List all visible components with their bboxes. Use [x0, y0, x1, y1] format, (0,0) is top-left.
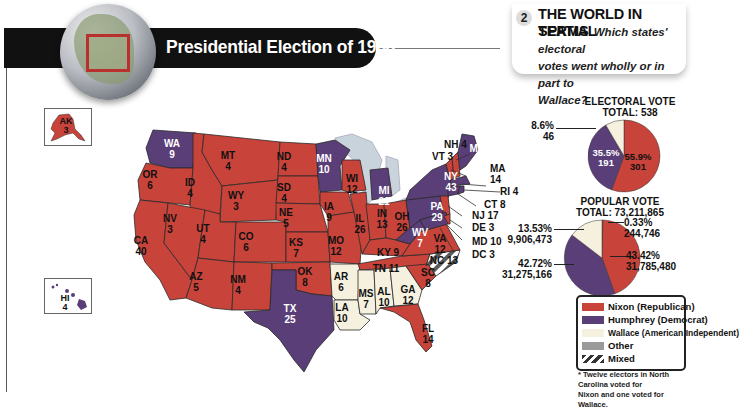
state-label-ky: KY 9 — [377, 247, 399, 258]
state-ev-mn: 10 — [318, 164, 330, 175]
state-ev-wy: 3 — [233, 201, 239, 212]
state-ev-ne: 5 — [283, 218, 289, 229]
state-label-al: AL — [377, 286, 390, 297]
state-label-mn: MN — [316, 153, 332, 164]
legend-label-nixon: Nixon (Republican) — [608, 301, 695, 312]
state-ev-la: 10 — [336, 313, 348, 324]
popular-humphrey-votes: 31,275,166 — [496, 269, 552, 280]
legend-item-mixed: Mixed — [582, 352, 635, 365]
legend-swatch-wallace — [582, 329, 604, 337]
state-label-id: ID — [185, 177, 195, 188]
state-ev-in: 13 — [376, 219, 388, 230]
state-label-de: DE 3 — [472, 222, 495, 233]
electoral-pie-chart: 55.9% 301 35.5% 191 — [586, 118, 662, 194]
state-ev-ok: 8 — [302, 277, 308, 288]
state-label-tn: TN 11 — [373, 263, 400, 274]
state-ev-va: 12 — [434, 244, 446, 255]
state-label-ia: IA — [324, 201, 334, 212]
state-label-fl: FL — [422, 323, 434, 334]
popular-other-votes: 244,746 — [624, 228, 684, 239]
state-label-vt: VT 3 — [432, 151, 454, 162]
state-label-sd: SD — [277, 182, 291, 193]
electoral-wallace-votes: 46 — [530, 131, 554, 142]
popular-other-pct: 0.33% — [624, 217, 684, 228]
state-wy[interactable] — [220, 180, 278, 222]
state-label-ms: MS — [359, 288, 374, 299]
state-ev-il: 26 — [354, 224, 366, 235]
electoral-humphrey-votes: 191 — [598, 157, 615, 168]
state-label-va: VA — [433, 233, 446, 244]
popular-wallace-label: 13.53% 9,906,473 — [500, 223, 552, 245]
state-label-ma-ev: 14 — [490, 174, 502, 185]
state-ev-fl: 14 — [422, 334, 434, 345]
state-label-wa: WA — [164, 138, 180, 149]
state-ev-me: 4 — [474, 154, 480, 165]
state-ev-ut: 4 — [200, 234, 206, 245]
legend-item-wallace: Wallace (American Independent) — [582, 326, 739, 339]
state-label-ny: NY — [444, 171, 458, 182]
popular-wallace-leader — [554, 229, 584, 230]
electoral-chart-title: ELECTORAL VOTE TOTAL: 538 — [580, 96, 680, 118]
electoral-title: ELECTORAL VOTE — [580, 96, 680, 107]
popular-nixon-votes: 31,785,480 — [626, 261, 686, 272]
state-ev-oh: 26 — [396, 222, 408, 233]
electoral-wallace-pct: 8.6% — [530, 120, 554, 131]
state-label-tx: TX — [284, 303, 297, 314]
electoral-wallace-leader — [556, 128, 596, 129]
popular-other-leader — [608, 222, 624, 223]
legend-swatch-humphrey — [582, 316, 604, 324]
popular-title: POPULAR VOTE — [560, 196, 680, 207]
state-ev-ks: 7 — [293, 248, 299, 259]
state-label-pa: PA — [430, 201, 443, 212]
state-ev-co: 6 — [243, 242, 249, 253]
state-ev-az: 5 — [193, 282, 199, 293]
legend-label-wallace: Wallace (American Independent) — [608, 328, 739, 338]
state-ev-ia: 9 — [326, 212, 332, 223]
state-label-ut: UT — [196, 223, 209, 234]
legend-swatch-mixed — [582, 355, 604, 363]
popular-humphrey-pct: 42.72% — [496, 258, 552, 269]
state-label-sc: SC — [421, 267, 435, 278]
state-label-mo: MO — [328, 235, 344, 246]
state-label-ok: OK — [298, 266, 314, 277]
state-ev-or: 6 — [147, 180, 153, 191]
state-ev-pa: 29 — [431, 212, 443, 223]
state-label-mi: MI — [378, 185, 389, 196]
state-ev-al: 10 — [378, 297, 390, 308]
popular-nixon-label: 43.42% 31,785,480 — [626, 250, 686, 272]
state-label-ar: AR — [334, 271, 349, 282]
popular-nixon-pct: 43.42% — [626, 250, 686, 261]
state-label-mt: MT — [221, 150, 235, 161]
electoral-total: TOTAL: 538 — [580, 107, 680, 118]
state-ev-id: 4 — [187, 188, 193, 199]
state-label-ga: GA — [401, 284, 416, 295]
state-ev-sd: 4 — [281, 193, 287, 204]
state-ev-mi: 21 — [378, 196, 390, 207]
popular-wallace-votes: 9,906,473 — [500, 234, 552, 245]
footnote: * Twelve electors in North Carolina vote… — [578, 370, 686, 410]
state-ar[interactable] — [330, 264, 360, 300]
state-label-md: MD 10 — [472, 236, 502, 247]
legend-label-other: Other — [608, 340, 633, 351]
legend-swatch-other — [582, 342, 604, 350]
state-ev-ny: 43 — [445, 182, 457, 193]
footnote-line-2: Nixon and one voted for Wallace. — [578, 390, 686, 410]
state-label-la: LA — [335, 302, 348, 313]
state-ev-wi: 12 — [346, 184, 358, 195]
state-label-wi: WI — [346, 173, 358, 184]
legend-item-other: Other — [582, 339, 633, 352]
state-ev-nv: 3 — [167, 224, 173, 235]
state-label-or: OR — [143, 169, 159, 180]
footnote-line-1: * Twelve electors in North Carolina vote… — [578, 370, 686, 390]
legend-item-humphrey: Humphrey (Democrat) — [582, 313, 708, 326]
state-label-nc: NC 13 — [430, 255, 459, 266]
popular-other-label: 0.33% 244,746 — [624, 217, 684, 239]
state-label-ne: NE — [279, 207, 293, 218]
state-label-ct: CT 8 — [484, 199, 506, 210]
state-label-me: ME — [470, 143, 485, 154]
state-ev-nd: 4 — [281, 162, 287, 173]
state-label-ca: CA — [134, 235, 148, 246]
state-co[interactable] — [234, 222, 286, 262]
legend-item-nixon: Nixon (Republican) — [582, 300, 695, 313]
state-ev-sc: 8 — [425, 278, 431, 289]
